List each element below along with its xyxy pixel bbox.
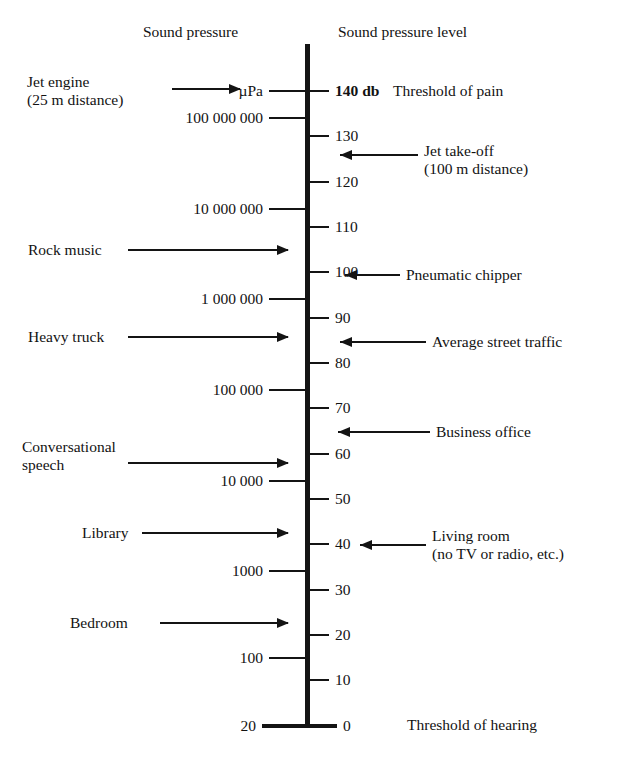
db-tick-label: 110 <box>335 218 358 235</box>
db-tick-label: 70 <box>335 400 351 417</box>
pressure-tick-label: 10 000 <box>220 472 263 489</box>
pressure-tick-label: 1 000 000 <box>201 291 263 308</box>
pressure-tick-label: 100 000 <box>213 381 263 398</box>
pressure-tick-label: 100 <box>240 649 263 666</box>
pressure-tick-label: 20 <box>241 717 257 734</box>
db-tick-label: 20 <box>335 626 351 643</box>
left-annotation-line: Rock music <box>28 241 102 259</box>
pressure-tick <box>269 298 307 300</box>
annotation-arrow-line <box>128 249 288 251</box>
annotation-arrow-head <box>229 84 241 94</box>
annotation-arrow-line <box>128 336 288 338</box>
right-annotation-line: Business office <box>436 423 531 441</box>
sound-level-diagram: Sound pressure Sound pressure level 140 … <box>0 0 626 759</box>
db-tick-label: 80 <box>335 354 351 371</box>
header-sound-pressure: Sound pressure <box>143 23 238 41</box>
pressure-tick-label: 100 000 000 <box>186 110 264 127</box>
annotation-arrow-head <box>277 245 289 255</box>
right-annotation-line: (100 m distance) <box>424 160 528 178</box>
db-tick-label: 90 <box>335 309 351 326</box>
annotation-arrow-head <box>338 427 350 437</box>
annotation-arrow-head <box>360 540 372 550</box>
left-annotation-line: Conversational <box>22 438 116 456</box>
annotation-arrow-head <box>340 150 352 160</box>
left-annotation-line: Bedroom <box>70 614 128 632</box>
annotation-arrow-head <box>345 270 357 280</box>
left-annotation: Bedroom <box>70 614 128 632</box>
annotation-arrow-line <box>128 462 288 464</box>
right-annotation-line: (no TV or radio, etc.) <box>432 545 564 563</box>
db-tick <box>307 724 337 728</box>
right-annotation: Average street traffic <box>432 333 562 351</box>
pressure-tick <box>269 389 307 391</box>
annotation-arrow-head <box>277 332 289 342</box>
pressure-tick-label: 10 000 000 <box>193 200 263 217</box>
db-tick <box>307 498 329 500</box>
annotation-arrow-head <box>277 618 289 628</box>
left-annotation-line: Heavy truck <box>28 328 104 346</box>
pressure-tick <box>269 90 307 92</box>
db-tick-label: 10 <box>335 671 351 688</box>
db-tick-label: 30 <box>335 581 351 598</box>
db-tick-label: 130 <box>335 128 358 145</box>
right-annotation-line: Living room <box>432 527 564 545</box>
db-tick-label: 50 <box>335 490 351 507</box>
right-annotation: Threshold of hearing <box>407 716 537 734</box>
annotation-arrow-line <box>340 341 426 343</box>
left-annotation-line: speech <box>22 456 116 474</box>
db-tick <box>307 634 329 636</box>
annotation-arrow-line <box>160 622 288 624</box>
db-tick-label: 40 <box>335 536 351 553</box>
db-tick <box>307 543 329 545</box>
db-tick <box>307 181 329 183</box>
right-annotation: Threshold of pain <box>393 82 503 100</box>
db-tick <box>307 362 329 364</box>
pressure-tick <box>269 117 307 119</box>
pressure-tick <box>269 657 307 659</box>
annotation-arrow-head <box>277 458 289 468</box>
vertical-axis <box>305 44 310 728</box>
left-annotation: Library <box>82 524 128 542</box>
db-tick <box>307 90 329 92</box>
left-annotation: Jet engine(25 m distance) <box>27 73 123 108</box>
db-tick <box>307 317 329 319</box>
db-tick <box>307 271 329 273</box>
db-tick-label: 140 db <box>335 82 379 99</box>
right-annotation: Business office <box>436 423 531 441</box>
annotation-arrow-head <box>277 528 289 538</box>
right-annotation-line: Threshold of hearing <box>407 716 537 734</box>
db-tick-label: 60 <box>335 445 351 462</box>
db-tick-label: 0 <box>343 717 351 734</box>
right-annotation: Living room(no TV or radio, etc.) <box>432 527 564 562</box>
pressure-tick <box>269 480 307 482</box>
right-annotation-line: Threshold of pain <box>393 82 503 100</box>
db-tick <box>307 135 329 137</box>
left-annotation-line: (25 m distance) <box>27 91 123 109</box>
annotation-arrow-line <box>142 532 288 534</box>
right-annotation-line: Average street traffic <box>432 333 562 351</box>
right-annotation-line: Jet take-off <box>424 142 528 160</box>
right-annotation: Pneumatic chipper <box>406 266 522 284</box>
annotation-arrow-head <box>340 337 352 347</box>
header-sound-pressure-level: Sound pressure level <box>338 23 467 41</box>
left-annotation: Heavy truck <box>28 328 104 346</box>
db-tick <box>307 226 329 228</box>
db-tick <box>307 453 329 455</box>
db-tick <box>307 679 329 681</box>
annotation-arrow-line <box>338 431 430 433</box>
db-tick <box>307 589 329 591</box>
right-annotation: Jet take-off(100 m distance) <box>424 142 528 177</box>
left-annotation: Rock music <box>28 241 102 259</box>
pressure-tick <box>269 570 307 572</box>
pressure-tick <box>269 208 307 210</box>
db-tick <box>307 407 329 409</box>
pressure-tick <box>262 724 307 728</box>
pressure-tick-label: 1000 <box>232 563 263 580</box>
left-annotation-line: Library <box>82 524 128 542</box>
left-annotation-line: Jet engine <box>27 73 123 91</box>
right-annotation-line: Pneumatic chipper <box>406 266 522 284</box>
pressure-tick-label: µPa <box>239 82 263 99</box>
left-annotation: Conversationalspeech <box>22 438 116 473</box>
db-tick-label: 120 <box>335 173 358 190</box>
